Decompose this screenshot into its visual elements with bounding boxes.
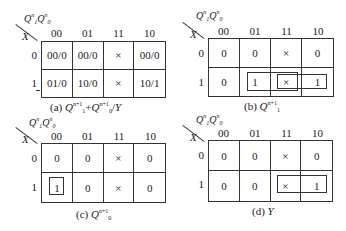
kmap-cell: 0 <box>240 39 271 68</box>
kmap-cell: 0 <box>209 141 240 171</box>
column-header: 10 <box>134 27 165 39</box>
column-header: 00 <box>208 127 239 139</box>
column-header: 11 <box>271 25 302 37</box>
column-header: 11 <box>103 130 135 142</box>
column-header: 11 <box>103 27 134 39</box>
kmap-cell: 0 <box>302 39 333 68</box>
column-header: 00 <box>41 130 72 142</box>
row-variable-label: X <box>190 131 197 143</box>
kmap-cell: 0 <box>209 68 240 97</box>
kmap-cell: 0 <box>73 144 104 173</box>
row-header: 1 <box>28 77 37 89</box>
kmap-cell: 0 <box>209 39 240 68</box>
grouping-loop <box>277 175 327 193</box>
panel-caption: (a) Qn+11+Qn+10/Y <box>50 101 121 114</box>
row-header: 1 <box>195 178 204 190</box>
column-header: 01 <box>239 127 271 139</box>
column-header: 01 <box>72 130 103 142</box>
kmap-cell-dontcare: × <box>104 173 135 202</box>
row-header: 1 <box>28 181 37 193</box>
column-header: 01 <box>239 25 271 37</box>
row-header: 0 <box>28 152 37 164</box>
column-header: 11 <box>271 127 302 139</box>
row-header: 1 <box>195 76 204 88</box>
panel-caption: (d) Y <box>252 205 274 217</box>
row-marker <box>36 90 40 91</box>
panel-caption: (b) Qn+11 <box>244 100 280 113</box>
column-header: 01 <box>72 27 103 39</box>
kmap-grid: 00/0 00/0 × 00/0 01/0 10/0 × 10/1 <box>41 41 166 98</box>
kmap-cell-dontcare: × <box>104 42 135 70</box>
row-variable-label: X <box>22 30 29 42</box>
grouping-loop <box>277 74 327 89</box>
column-variables-label: Qn1Qn0 <box>29 116 55 129</box>
kmap-cell: 10/0 <box>73 70 104 98</box>
kmap-cell-dontcare: × <box>271 141 302 171</box>
kmap-cell: 0 <box>240 171 271 201</box>
grouping-loop <box>49 177 64 195</box>
kmap-cell-dontcare: × <box>104 70 135 98</box>
panel-caption: (c) Qn+10 <box>76 208 111 221</box>
kmap-cell: 0 <box>134 173 165 202</box>
column-header: 10 <box>135 130 166 142</box>
row-header: 0 <box>28 49 37 61</box>
kmap-cell: 00/0 <box>42 42 73 70</box>
row-header: 0 <box>195 149 204 161</box>
column-variables-label: Qn1Qn0 <box>196 113 222 126</box>
kmap-cell: 10/1 <box>134 70 165 98</box>
kmap-cell: 0 <box>301 141 332 171</box>
column-header: 00 <box>41 27 72 39</box>
column-header: 00 <box>208 25 239 37</box>
row-variable-label: X <box>190 28 197 40</box>
kmap-cell: 0 <box>240 141 271 171</box>
column-header: 10 <box>302 25 334 37</box>
row-header: 0 <box>195 47 204 59</box>
kmap-cell: 0 <box>209 171 240 201</box>
column-variables-label: Qn1Qn0 <box>24 12 50 25</box>
kmap-cell-dontcare: × <box>104 144 135 173</box>
column-header: 10 <box>302 127 333 139</box>
row-variable-label: X <box>22 133 29 145</box>
kmap-cell: 0 <box>73 173 104 202</box>
kmap-cell-dontcare: × <box>271 39 302 68</box>
kmap-cell: 00/0 <box>134 42 165 70</box>
kmap-cell: 01/0 <box>42 70 73 98</box>
column-variables-label: Qn1Qn0 <box>196 9 222 22</box>
kmap-cell: 0 <box>42 144 73 173</box>
kmap-cell: 00/0 <box>73 42 104 70</box>
kmap-cell: 0 <box>134 144 165 173</box>
